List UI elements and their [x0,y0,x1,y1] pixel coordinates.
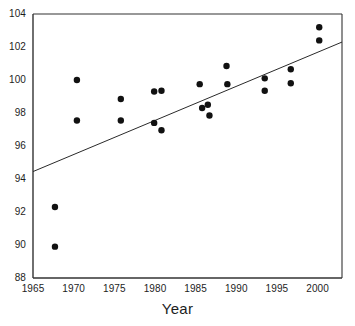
y-tick-label: 100 [0,75,26,85]
x-tick-label: 1975 [94,284,134,294]
scatter-chart: 889092949698100102104 196519701975198019… [0,0,355,326]
data-point [205,102,211,108]
data-point [316,24,322,30]
data-point [52,243,58,249]
data-point [74,77,80,83]
x-tick-label: 1995 [257,284,297,294]
x-axis-title: Year [0,300,355,317]
data-point [158,127,164,133]
plot-canvas [0,0,355,326]
y-tick-label: 96 [0,141,26,151]
data-point [262,88,268,94]
data-point [224,81,230,87]
data-point [288,80,294,86]
data-point [223,63,229,69]
x-tick-label: 1985 [176,284,216,294]
data-point [151,120,157,126]
data-point [118,96,124,102]
y-tick-label: 94 [0,174,26,184]
data-point [197,81,203,87]
y-tick-label: 98 [0,108,26,118]
y-tick-label: 90 [0,240,26,250]
trend-line [33,42,342,172]
axis-lines [33,14,342,278]
y-tick-label: 92 [0,207,26,217]
x-tick-label: 1990 [216,284,256,294]
x-tick-label: 1965 [13,284,53,294]
data-point [151,88,157,94]
x-tick-label: 2000 [298,284,338,294]
data-point [206,112,212,118]
data-point [158,88,164,94]
data-point [118,117,124,123]
y-tick-label: 88 [0,273,26,283]
data-point [316,37,322,43]
y-tick-label: 104 [0,9,26,19]
y-tick-label: 102 [0,42,26,52]
data-points-group [52,24,323,250]
x-tick-label: 1970 [54,284,94,294]
x-tick-label: 1980 [135,284,175,294]
data-point [199,105,205,111]
data-point [74,117,80,123]
data-point [262,75,268,81]
data-point [52,204,58,210]
data-point [288,66,294,72]
